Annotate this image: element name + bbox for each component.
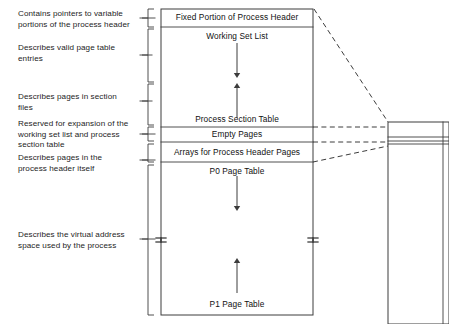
arrow-working-set-down-head — [234, 73, 240, 78]
caption-variable-portions: Contains pointers to variable portions o… — [18, 9, 130, 30]
arrow-p1-page-table-up-head — [234, 258, 240, 263]
arrow-process-table-up-head — [234, 83, 240, 88]
section-working-set: Working Set List — [161, 31, 313, 41]
arrow-p0-page-table-down-head — [234, 206, 240, 211]
detail-box-outline — [388, 122, 449, 324]
section-fixed-portion: Fixed Portion of Process Header — [161, 12, 313, 22]
caption-process-header: Describes pages in the process header it… — [18, 153, 102, 174]
bracket-working-set-arc — [148, 29, 154, 82]
section-process-table: Process Section Table — [161, 114, 313, 124]
caption-virtual-address: Describes the virtual address space used… — [18, 230, 125, 251]
connector-group — [313, 9, 388, 162]
diagram-canvas: Contains pointers to variable portions o… — [0, 0, 449, 324]
connector-top — [314, 9, 388, 122]
bracket-working-set — [142, 29, 154, 82]
section-empty-pages: Empty Pages — [161, 129, 313, 139]
connector-bottom — [313, 146, 388, 162]
bracket-page-tables — [142, 165, 154, 315]
bracket-arrays-arc — [148, 144, 154, 162]
bracket-arrays — [142, 144, 154, 162]
arrow-working-set-down — [234, 43, 240, 78]
section-p1-page-table: P1 Page Table — [161, 299, 313, 309]
caption-section-files: Describes pages in section files — [18, 92, 117, 113]
leader-line-group — [140, 18, 155, 239]
section-arrays: Arrays for Process Header Pages — [161, 147, 313, 157]
section-p0-page-table: P0 Page Table — [161, 166, 313, 176]
arrow-p0-page-table-down — [234, 176, 240, 211]
bracket-process-section — [142, 84, 154, 125]
bracket-page-tables-arc — [148, 165, 154, 315]
caption-valid-page-table: Describes valid page table entries — [18, 43, 115, 64]
bracket-process-section-arc — [148, 84, 154, 125]
caption-reserved-expansion: Reserved for expansion of the working se… — [18, 119, 128, 151]
arrow-process-table-up — [234, 83, 240, 118]
arrow-p1-page-table-up — [234, 258, 240, 293]
detail-box-group — [388, 122, 449, 324]
